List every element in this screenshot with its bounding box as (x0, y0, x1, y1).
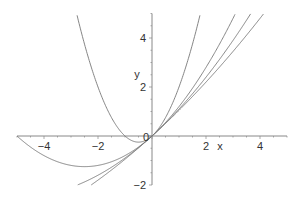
y-axis-title: y (134, 68, 140, 80)
y-tick-label: 4 (140, 32, 146, 44)
x-tick-label: −4 (38, 140, 51, 152)
x-tick-label: −2 (92, 140, 105, 152)
x-tick-label: 4 (257, 140, 263, 152)
y-tick-label: 2 (140, 81, 146, 93)
axes (17, 14, 287, 186)
plot-area: −4−2240−224xy (0, 0, 301, 201)
origin-label: 0 (143, 131, 149, 143)
x-axis-title: x (217, 140, 223, 152)
y-tick-label: −2 (133, 179, 146, 191)
x-tick-label: 2 (203, 140, 209, 152)
curve-3 (78, 14, 251, 185)
